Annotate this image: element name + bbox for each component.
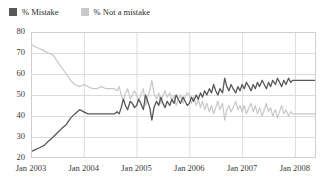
x-axis-tick-label: Jan 2004	[58, 163, 110, 173]
y-axis-tick-label: 50	[3, 90, 25, 99]
x-axis-tick-label: Jan 2003	[5, 163, 57, 173]
data-series-group	[31, 45, 316, 152]
y-axis-tick-label: 70	[3, 48, 25, 57]
chart-legend: % Mistake % Not a mistake	[9, 5, 150, 19]
chart-container: % Mistake % Not a mistake 80706050403020…	[0, 0, 322, 181]
x-axis-tick-label: Jan 2005	[111, 163, 163, 173]
y-axis-tick-label: 40	[3, 111, 25, 120]
y-axis-tick-label: 60	[3, 69, 25, 78]
y-axis-tick-label: 80	[3, 27, 25, 36]
legend-item-mistake: % Mistake	[9, 8, 59, 17]
chart-plot-svg	[31, 32, 316, 158]
x-axis-tick-label: Jan 2006	[163, 163, 215, 173]
legend-label-mistake: % Mistake	[22, 8, 59, 17]
legend-swatch-mistake	[9, 8, 17, 16]
legend-swatch-not-a-mistake	[81, 8, 89, 16]
plot-area	[31, 32, 316, 158]
data-line-not-a-mistake	[31, 45, 316, 121]
x-axis-tick-label: Jan 2007	[216, 163, 268, 173]
legend-item-not-a-mistake: % Not a mistake	[81, 8, 150, 17]
legend-label-not-a-mistake: % Not a mistake	[94, 8, 150, 17]
x-axis-tick-label: Jan 2008	[269, 163, 321, 173]
y-axis-tick-label: 20	[3, 153, 25, 162]
y-axis-tick-label: 30	[3, 132, 25, 141]
